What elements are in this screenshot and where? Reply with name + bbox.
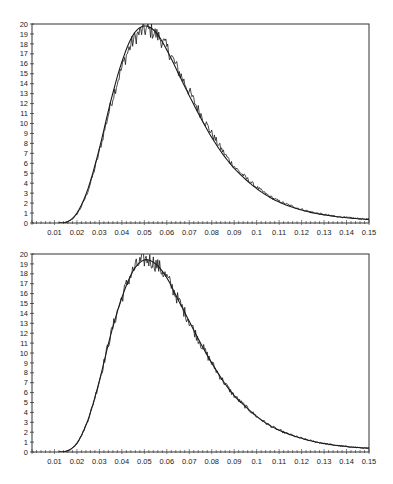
y-tick-label: 11 — [20, 109, 28, 118]
y-tick-label: 1 — [24, 438, 28, 447]
y-tick-label: 16 — [20, 59, 28, 68]
plot-frame — [32, 24, 369, 223]
y-tick-label: 3 — [24, 418, 28, 427]
x-tick-label: 0.08 — [204, 228, 219, 237]
y-tick-label: 8 — [24, 139, 28, 148]
y-tick-label: 14 — [20, 309, 28, 318]
x-tick-label: 0.08 — [204, 457, 219, 466]
y-tick-label: 10 — [20, 349, 28, 358]
y-tick-label: 15 — [20, 69, 28, 78]
x-tick-label: 0.05 — [137, 457, 152, 466]
y-tick-label: 5 — [24, 169, 28, 178]
x-tick-label: 0.07 — [182, 228, 197, 237]
y-tick-label: 19 — [20, 30, 28, 39]
x-tick-label: 0.15 — [362, 228, 377, 237]
y-tick-label: 3 — [24, 189, 28, 198]
y-tick-label: 2 — [24, 428, 28, 437]
x-tick-label: 0.15 — [362, 457, 377, 466]
y-tick-label: 8 — [24, 368, 28, 377]
y-tick-label: 19 — [20, 260, 28, 269]
y-tick-label: 2 — [24, 199, 28, 208]
y-tick-label: 1 — [24, 209, 28, 218]
y-tick-label: 0 — [24, 448, 28, 457]
y-tick-label: 12 — [20, 329, 28, 338]
x-tick-label: 0.12 — [294, 457, 309, 466]
y-tick-label: 4 — [24, 179, 28, 188]
y-tick-label: 13 — [20, 319, 28, 328]
x-tick-label: 0.03 — [92, 228, 107, 237]
x-tick-label: 0.04 — [115, 228, 130, 237]
y-tick-label: 4 — [24, 408, 28, 417]
chart-panel-2: 012345678910111213141516171819200.010.02… — [20, 250, 377, 466]
x-tick-label: 0.09 — [227, 457, 242, 466]
y-tick-label: 7 — [24, 149, 28, 158]
y-tick-label: 17 — [20, 49, 28, 58]
y-tick-label: 20 — [20, 20, 28, 29]
x-tick-label: 0.02 — [70, 228, 85, 237]
x-tick-label: 0.14 — [339, 457, 354, 466]
x-tick-label: 0.13 — [317, 457, 332, 466]
x-tick-label: 0.02 — [70, 457, 85, 466]
y-tick-label: 15 — [20, 299, 28, 308]
y-tick-label: 6 — [24, 159, 28, 168]
y-tick-label: 20 — [20, 250, 28, 259]
x-tick-label: 0.11 — [272, 228, 286, 237]
plot-frame — [32, 254, 369, 452]
y-tick-label: 9 — [24, 129, 28, 138]
chart-canvas: 012345678910111213141516171819200.010.02… — [0, 0, 393, 484]
y-tick-label: 5 — [24, 398, 28, 407]
y-tick-label: 0 — [24, 219, 28, 228]
y-tick-label: 11 — [20, 339, 28, 348]
y-tick-label: 13 — [20, 89, 28, 98]
x-tick-label: 0.05 — [137, 228, 152, 237]
x-tick-label: 0.06 — [159, 228, 174, 237]
y-tick-label: 14 — [20, 79, 28, 88]
x-tick-label: 0.1 — [251, 228, 261, 237]
y-tick-label: 7 — [24, 378, 28, 387]
empirical-density-line — [59, 253, 369, 452]
x-tick-label: 0.01 — [47, 228, 62, 237]
x-tick-label: 0.07 — [182, 457, 197, 466]
x-tick-label: 0.09 — [227, 228, 242, 237]
y-tick-label: 12 — [20, 99, 28, 108]
x-tick-label: 0.12 — [294, 228, 309, 237]
chart-panel-1: 012345678910111213141516171819200.010.02… — [20, 20, 377, 237]
y-tick-label: 6 — [24, 388, 28, 397]
y-tick-label: 16 — [20, 289, 28, 298]
x-tick-label: 0.01 — [47, 457, 62, 466]
x-tick-label: 0.14 — [339, 228, 354, 237]
y-tick-label: 18 — [20, 40, 28, 49]
y-tick-label: 18 — [20, 269, 28, 278]
x-tick-label: 0.06 — [159, 457, 174, 466]
x-tick-label: 0.11 — [272, 457, 286, 466]
y-tick-label: 17 — [20, 279, 28, 288]
x-tick-label: 0.03 — [92, 457, 107, 466]
y-tick-label: 9 — [24, 359, 28, 368]
x-tick-label: 0.04 — [115, 457, 130, 466]
x-tick-label: 0.13 — [317, 228, 332, 237]
x-tick-label: 0.1 — [251, 457, 261, 466]
y-tick-label: 10 — [20, 119, 28, 128]
